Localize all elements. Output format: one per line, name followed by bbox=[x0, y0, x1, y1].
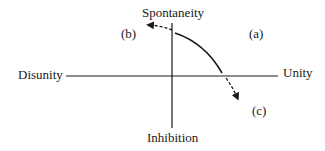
dashed-arrow-b bbox=[150, 25, 172, 30]
quadrant-label-b: (b) bbox=[121, 27, 136, 40]
axis-label-unity: Unity bbox=[283, 66, 313, 79]
solid-curve bbox=[175, 33, 222, 73]
axis-label-spontaneity: Spontaneity bbox=[142, 6, 204, 19]
quadrant-label-c: (c) bbox=[252, 104, 266, 117]
dashed-arrow-c bbox=[226, 78, 237, 97]
quadrant-label-a: (a) bbox=[249, 27, 263, 40]
axis-label-disunity: Disunity bbox=[18, 68, 63, 81]
axis-label-inhibition: Inhibition bbox=[147, 131, 198, 144]
